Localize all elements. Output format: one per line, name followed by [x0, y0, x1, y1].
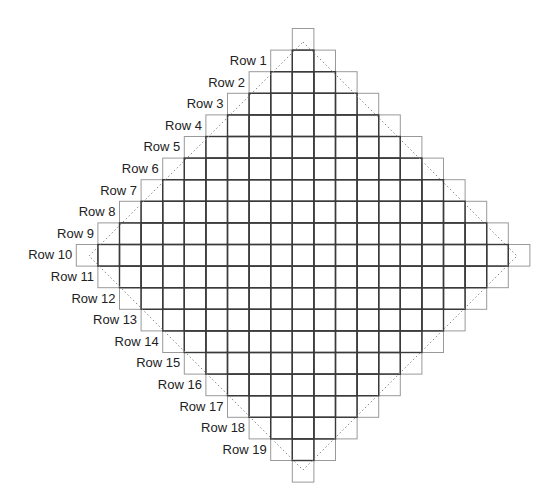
outer-cell [249, 201, 271, 223]
outer-cell [400, 309, 422, 331]
outer-cell [292, 137, 314, 159]
grid-cell [379, 137, 401, 159]
outer-cell [249, 93, 271, 115]
outer-cell [314, 115, 336, 137]
outer-cell [314, 266, 336, 288]
grid-cell [444, 288, 466, 310]
row-label: Row 14 [79, 335, 159, 349]
grid-cell [141, 223, 163, 245]
outer-cell [400, 201, 422, 223]
grid-cell [314, 288, 336, 310]
outer-cell [249, 158, 271, 180]
grid-cell [314, 245, 336, 267]
grid-cell [271, 72, 293, 94]
outer-cell [487, 245, 509, 267]
outer-cell [379, 158, 401, 180]
grid-cell [163, 266, 185, 288]
grid-cell [228, 266, 250, 288]
grid-cell [141, 245, 163, 267]
outer-cell [271, 137, 293, 159]
outer-cell [357, 223, 379, 245]
outer-cell [184, 245, 206, 267]
grid-cell [314, 223, 336, 245]
grid-cell [271, 309, 293, 331]
outer-cell [271, 180, 293, 202]
outer-cell [184, 353, 206, 375]
grid-cell [249, 245, 271, 267]
outer-cell [228, 115, 250, 137]
grid-cell [163, 309, 185, 331]
outer-cell [465, 288, 487, 310]
outer-cell [487, 266, 509, 288]
outer-cell [422, 331, 444, 353]
grid-cell [271, 353, 293, 375]
grid-cell [422, 180, 444, 202]
outer-cell [379, 180, 401, 202]
outer-cell [379, 137, 401, 159]
outer-cell [206, 115, 228, 137]
grid-cell [120, 245, 142, 267]
outer-cell [336, 417, 358, 439]
outer-cell [98, 245, 120, 267]
grid-cell [120, 266, 142, 288]
outer-cell [206, 201, 228, 223]
outer-cell [379, 266, 401, 288]
grid-cell [163, 245, 185, 267]
grid-cell [379, 309, 401, 331]
grid-cell [292, 50, 314, 72]
outer-cell [271, 245, 293, 267]
grid-cell [400, 309, 422, 331]
grid-cell [314, 115, 336, 137]
outer-cell [249, 72, 271, 94]
outer-cell [271, 158, 293, 180]
grid-cell [249, 266, 271, 288]
outer-cell [228, 374, 250, 396]
outer-cell [314, 245, 336, 267]
outer-cell [228, 201, 250, 223]
outer-cell [228, 288, 250, 310]
outer-cell [422, 223, 444, 245]
outer-cell [444, 288, 466, 310]
outer-cell [357, 374, 379, 396]
outer-cell [400, 288, 422, 310]
outer-cell [271, 288, 293, 310]
grid-cell [271, 201, 293, 223]
grid-cell [228, 180, 250, 202]
outer-cell [336, 374, 358, 396]
grid-cell [379, 245, 401, 267]
grid-cell [336, 158, 358, 180]
outer-cell [249, 223, 271, 245]
grid-cell [357, 137, 379, 159]
outer-cell [184, 223, 206, 245]
outer-cell [292, 93, 314, 115]
outer-cell [249, 396, 271, 418]
outer-cell [206, 353, 228, 375]
outer-cell [184, 288, 206, 310]
grid-cell [400, 201, 422, 223]
diamond-grid-svg [0, 0, 556, 502]
outer-cell [206, 180, 228, 202]
outer-cell [292, 461, 314, 483]
outer-cell [249, 245, 271, 267]
grid-cell [314, 331, 336, 353]
outer-cell [357, 115, 379, 137]
outer-cell [141, 309, 163, 331]
grid-cell [444, 201, 466, 223]
grid-cell [444, 223, 466, 245]
outer-cell [292, 353, 314, 375]
outer-cell [465, 266, 487, 288]
grid-cell [271, 288, 293, 310]
grid-cell [271, 417, 293, 439]
outer-cell [314, 93, 336, 115]
outer-cell [249, 180, 271, 202]
grid-cell [336, 331, 358, 353]
outer-cell [228, 396, 250, 418]
outer-cell [422, 180, 444, 202]
outer-cell [120, 201, 142, 223]
grid-cell [314, 396, 336, 418]
outer-cell [314, 72, 336, 94]
outer-cell [249, 288, 271, 310]
outer-cell [120, 288, 142, 310]
outer-cell [336, 309, 358, 331]
outer-cell [249, 266, 271, 288]
